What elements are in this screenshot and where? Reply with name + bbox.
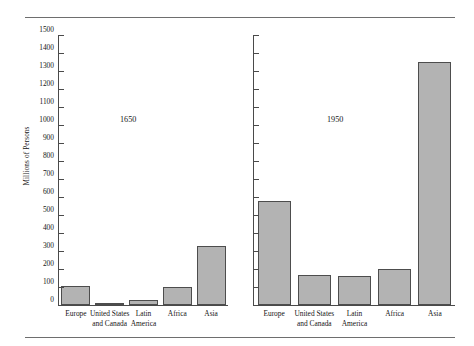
y-axis-tick-100: [59, 287, 64, 288]
y-axis-tick-700: [254, 179, 259, 180]
bar-slot: [418, 34, 451, 305]
y-axis-tick-1100: [254, 107, 259, 108]
y-axis-tick-500: [59, 215, 64, 216]
y-axis-tick-1300: [254, 71, 259, 72]
bar: [61, 286, 90, 305]
y-tick-label-0: 0: [26, 296, 54, 304]
y-axis-tick-600: [59, 197, 64, 198]
y-tick-label-700: 700: [26, 170, 54, 178]
y-tick-label-600: 600: [26, 188, 54, 196]
y-axis-tick-900: [254, 143, 259, 144]
bar-slot: [298, 34, 331, 305]
bar-slot: [258, 34, 291, 305]
y-axis-tick-200: [59, 269, 64, 270]
x-category-label-line: America: [112, 319, 176, 329]
y-tick-label-1000: 1000: [26, 116, 54, 124]
bar: [163, 287, 192, 305]
y-axis-tick-1200: [254, 89, 259, 90]
y-axis-tick-500: [254, 215, 259, 216]
bar-slot: [61, 34, 90, 305]
bar: [378, 269, 411, 305]
y-axis-tick-400: [59, 233, 64, 234]
y-tick-label-1500: 1500: [26, 26, 54, 34]
x-category-label-line: America: [323, 319, 387, 329]
y-tick-label-1300: 1300: [26, 62, 54, 70]
y-axis-tick-0: [59, 305, 64, 306]
bar-slot: [378, 34, 411, 305]
x-category-label: Asia: [179, 309, 243, 319]
y-axis-tick-1400: [59, 53, 64, 54]
y-tick-label-800: 800: [26, 152, 54, 160]
y-axis-tick-300: [59, 251, 64, 252]
y-axis-tick-300: [254, 251, 259, 252]
x-category-label-line: Asia: [403, 309, 467, 319]
y-tick-label-1100: 1100: [26, 98, 54, 106]
x-axis-line: [58, 305, 228, 306]
y-axis-tick-0: [254, 305, 259, 306]
y-axis-tick-800: [59, 161, 64, 162]
bar: [418, 62, 451, 305]
y-axis-tick-100: [254, 287, 259, 288]
y-tick-label-200: 200: [26, 260, 54, 268]
x-axis-line: [253, 305, 455, 306]
x-category-label: Asia: [403, 309, 467, 319]
bar: [338, 276, 371, 305]
y-axis-tick-200: [254, 269, 259, 270]
bar-slot: [197, 34, 226, 305]
top-rule: [25, 17, 455, 18]
y-axis-tick-800: [254, 161, 259, 162]
y-axis-tick-1100: [59, 107, 64, 108]
bar: [258, 201, 291, 305]
y-tick-label-900: 900: [26, 134, 54, 142]
y-axis-tick-1400: [254, 53, 259, 54]
y-tick-label-100: 100: [26, 278, 54, 286]
y-tick-label-400: 400: [26, 224, 54, 232]
bar-slot: [338, 34, 371, 305]
bar-slot: [95, 34, 124, 305]
y-axis-tick-1200: [59, 89, 64, 90]
y-axis-tick-600: [254, 197, 259, 198]
bar-slot: [129, 34, 158, 305]
y-axis-tick-1000: [254, 125, 259, 126]
y-tick-label-500: 500: [26, 206, 54, 214]
bar-group-1950: [254, 34, 455, 305]
y-axis-tick-700: [59, 179, 64, 180]
y-axis-tick-1500: [59, 35, 64, 36]
bar: [95, 303, 124, 305]
bottom-rule: [25, 337, 455, 338]
y-tick-label-300: 300: [26, 242, 54, 250]
bar: [298, 275, 331, 305]
bar-group-1650: [59, 34, 228, 305]
y-axis-tick-1300: [59, 71, 64, 72]
bar: [197, 246, 226, 305]
panel-1650: 1650 EuropeUnited Statesand CanadaLatinA…: [58, 35, 228, 305]
panel-1950: 1950 EuropeUnited Statesand CanadaLatinA…: [253, 35, 455, 305]
y-tick-label-1400: 1400: [26, 44, 54, 52]
bar-slot: [163, 34, 192, 305]
y-axis-tick-1000: [59, 125, 64, 126]
y-axis-tick-1500: [254, 35, 259, 36]
population-bar-chart-figure: Millions of Persons 15001400130012001100…: [0, 0, 474, 346]
y-tick-label-1200: 1200: [26, 80, 54, 88]
x-category-label-line: Asia: [179, 309, 243, 319]
y-axis-tick-900: [59, 143, 64, 144]
y-axis-tick-labels: 1500140013001200110010009008007006005004…: [26, 30, 54, 310]
bar: [129, 300, 158, 305]
y-axis-tick-400: [254, 233, 259, 234]
